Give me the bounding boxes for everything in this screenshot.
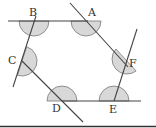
vertex-label-b: B [29, 6, 37, 19]
vertex-label-f: F [129, 57, 137, 70]
vertex-label-d: D [52, 102, 61, 115]
vertex-label-a: A [87, 6, 97, 19]
hexagon-angle-diagram: ABCDEF [0, 0, 156, 128]
angle-mark-a [71, 21, 101, 36]
line-a-f [70, 3, 128, 67]
angle-mark-c [17, 47, 37, 76]
vertex-label-c: C [8, 54, 16, 67]
angle-mark-e [99, 86, 129, 101]
angle-mark-d [47, 86, 77, 101]
vertex-label-e: E [109, 103, 117, 116]
